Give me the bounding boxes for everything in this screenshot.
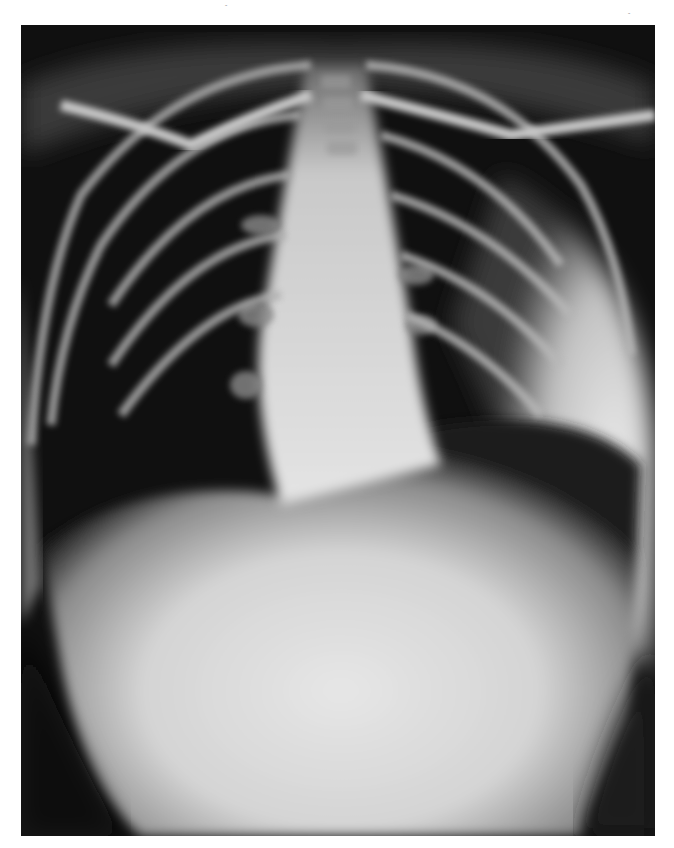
margin-mark: ˆ: [225, 4, 227, 11]
xray-rendering: [21, 25, 655, 836]
margin-mark: ˆ: [628, 12, 630, 19]
xray-image: [21, 25, 655, 836]
